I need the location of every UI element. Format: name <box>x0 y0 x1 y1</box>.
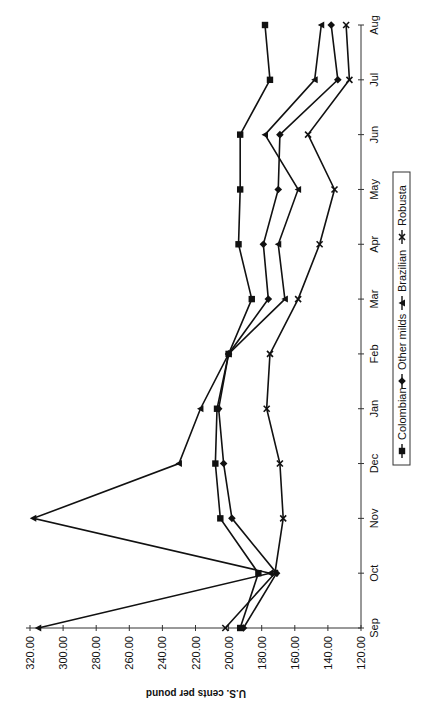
series-group <box>30 21 353 632</box>
value-tick-label: 300.00 <box>57 636 69 670</box>
category-tick-label: Apr <box>368 235 380 252</box>
point-colombian <box>249 296 255 302</box>
point-other-milds <box>220 460 228 468</box>
category-tick-label: Aug <box>368 15 380 35</box>
point-colombian <box>262 22 268 28</box>
point-other-milds <box>260 240 268 248</box>
legend-marker-colombian <box>399 448 405 454</box>
category-tick-label: Jul <box>368 73 380 87</box>
category-tick-label: Oct <box>368 565 380 582</box>
y-axis-title: U.S. cents per pound <box>146 688 246 699</box>
line-colombian <box>215 25 270 628</box>
value-tick-label: 260.00 <box>123 636 135 670</box>
series-other-milds <box>215 21 342 632</box>
point-other-milds <box>274 186 282 194</box>
value-tick-label: 220.00 <box>190 636 202 670</box>
category-tick-label: May <box>368 179 380 200</box>
series-robusta <box>222 22 352 631</box>
category-tick-label: Sep <box>368 618 380 638</box>
category-tick-label: Jun <box>368 126 380 144</box>
point-colombian <box>212 460 218 466</box>
value-tick-label: 180.00 <box>256 636 268 670</box>
point-brazilian <box>262 131 269 138</box>
value-tick-label: 320.00 <box>24 636 36 670</box>
point-brazilian <box>35 625 42 632</box>
legend: ColombianOther mildsBrazilianRobusta <box>393 172 410 465</box>
legend-label: Brazilian <box>396 250 408 292</box>
line-brazilian <box>33 25 321 628</box>
line-robusta <box>225 25 349 628</box>
line-other-milds <box>219 25 338 628</box>
point-brazilian <box>30 515 37 522</box>
point-colombian <box>217 515 223 521</box>
category-tick-label: Nov <box>368 508 380 528</box>
legend-label: Colombian <box>396 387 408 440</box>
coffee-price-chart: 320.00300.00280.00260.00240.00220.00200.… <box>0 0 424 714</box>
point-robusta <box>305 132 311 138</box>
category-tick-label: Dec <box>368 453 380 473</box>
point-colombian <box>237 131 243 137</box>
legend-label: Other milds <box>396 313 408 370</box>
point-colombian <box>267 77 273 83</box>
ticks: 320.00300.00280.00260.00240.00220.00200.… <box>24 15 380 669</box>
legend-label: Robusta <box>396 184 408 226</box>
point-brazilian <box>175 460 182 467</box>
point-colombian <box>235 241 241 247</box>
category-tick-label: Mar <box>368 289 380 308</box>
value-tick-label: 160.00 <box>289 636 301 670</box>
point-other-milds <box>327 21 335 29</box>
series-colombian <box>212 22 273 631</box>
value-tick-label: 140.00 <box>322 636 334 670</box>
point-colombian <box>237 186 243 192</box>
value-tick-label: 280.00 <box>90 636 102 670</box>
value-tick-label: 200.00 <box>223 636 235 670</box>
category-tick-label: Feb <box>368 344 380 363</box>
axes <box>26 25 361 628</box>
value-tick-label: 120.00 <box>355 636 367 670</box>
category-tick-label: Jan <box>368 400 380 418</box>
value-tick-label: 240.00 <box>156 636 168 670</box>
